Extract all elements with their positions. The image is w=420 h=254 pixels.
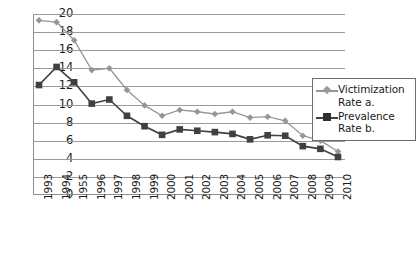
legend-item-victimization: Victimization Rate a. [316, 83, 411, 109]
series-line [39, 20, 338, 151]
x-axis-tick-label: 2009 [324, 148, 335, 200]
legend-item-prevalence: Prevalence Rate b. [316, 110, 411, 136]
data-point-marker [176, 107, 183, 114]
data-point-marker [335, 154, 342, 161]
x-axis-tick-label: 2002 [201, 148, 212, 200]
data-point-marker [212, 129, 219, 136]
x-axis-tick-label: 1993 [43, 148, 54, 200]
x-axis-tick-label: 2010 [342, 148, 353, 200]
data-point-marker [159, 113, 166, 120]
data-point-marker [229, 108, 236, 115]
data-point-marker [141, 123, 148, 130]
x-axis-tick-label: 1998 [131, 148, 142, 200]
x-axis-tick-label: 1997 [113, 148, 124, 200]
data-point-marker [194, 127, 201, 134]
data-point-marker [282, 132, 289, 139]
x-axis-tick-label: 1999 [149, 148, 160, 200]
x-axis-tick-label: 2001 [184, 148, 195, 200]
x-axis-tick-label: 2003 [219, 148, 230, 200]
legend-label-victimization: Victimization Rate a. [338, 83, 411, 109]
data-point-marker [247, 114, 254, 121]
data-point-marker [229, 131, 236, 138]
x-axis-tick-label: 2006 [272, 148, 283, 200]
x-axis-tick-label: 2000 [166, 148, 177, 200]
data-point-marker [88, 100, 95, 107]
data-point-marker [264, 132, 271, 139]
data-point-marker [247, 136, 254, 143]
data-point-marker [300, 143, 307, 150]
legend-label-prevalence: Prevalence Rate b. [338, 110, 411, 136]
data-point-marker [264, 113, 271, 120]
diamond-marker-icon [316, 84, 338, 97]
x-axis-tick-label: 2007 [289, 148, 300, 200]
data-point-marker [53, 64, 60, 71]
data-point-marker [124, 113, 131, 120]
data-point-marker [36, 17, 43, 24]
data-point-marker [159, 132, 166, 139]
chart-legend: Victimization Rate a. Prevalence Rate b. [312, 78, 416, 141]
series-line [39, 67, 338, 157]
data-point-marker [194, 108, 201, 115]
x-axis-tick-label: 2004 [236, 148, 247, 200]
x-axis-tick-label: 1955 [78, 148, 89, 200]
x-axis-tick-label: 2005 [254, 148, 265, 200]
data-point-marker [176, 126, 183, 133]
data-point-marker [88, 67, 95, 74]
x-axis-tick-label: 2008 [307, 148, 318, 200]
data-point-marker [36, 82, 43, 89]
square-marker-icon [316, 111, 338, 124]
x-axis-tick-label: 1996 [96, 148, 107, 200]
line-chart: 20181614121086420 1993199419551996199719… [0, 0, 420, 254]
data-point-marker [106, 96, 113, 103]
data-point-marker [317, 146, 324, 153]
data-point-marker [212, 111, 219, 118]
data-point-marker [71, 79, 78, 86]
x-axis-tick-label: 1994 [61, 148, 72, 200]
